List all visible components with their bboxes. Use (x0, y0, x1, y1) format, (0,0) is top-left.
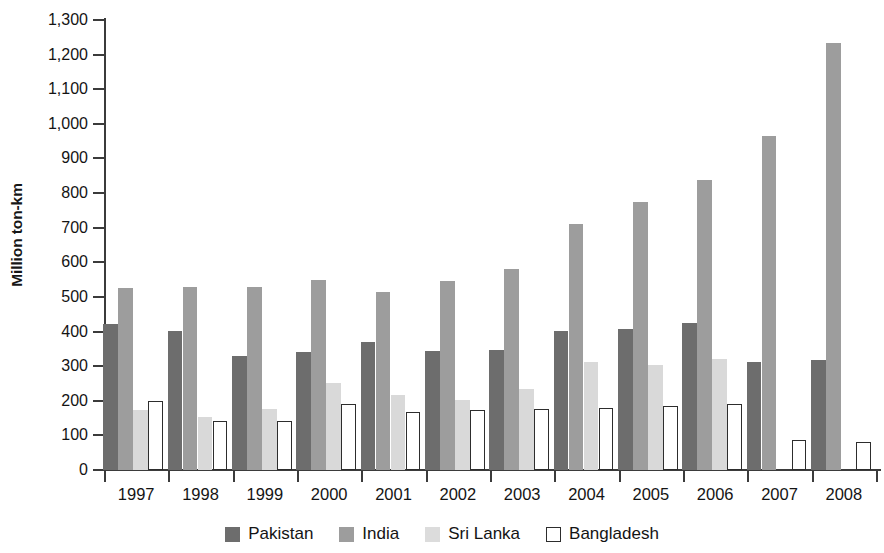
legend-item-pakistan[interactable]: Pakistan (225, 524, 313, 544)
x-axis-tick (876, 471, 878, 482)
bar-india-2005 (633, 202, 648, 470)
y-axis-tick (93, 123, 104, 125)
y-axis-tick-label: 800 (32, 184, 88, 202)
legend-swatch-bangladesh-icon (546, 527, 561, 542)
legend-swatch-india-icon (339, 527, 354, 542)
y-axis-tick-label: 1,200 (32, 46, 88, 64)
x-axis-tick-label: 1999 (246, 485, 283, 504)
y-axis-tick (93, 434, 104, 436)
bar-india-2003 (504, 269, 519, 470)
y-axis-tick (93, 400, 104, 402)
bar-bangladesh-2001 (406, 412, 421, 470)
y-axis-title-text: Million ton-km (8, 183, 26, 287)
x-axis-tick (812, 471, 814, 482)
bar-pakistan-2005 (618, 329, 633, 470)
y-axis-tick (93, 261, 104, 263)
bar-bangladesh-2003 (534, 409, 549, 470)
x-axis-tick-label: 2006 (697, 485, 734, 504)
legend-label-pakistan: Pakistan (248, 524, 313, 544)
legend-item-india[interactable]: India (339, 524, 399, 544)
bar-pakistan-1997 (103, 324, 118, 470)
y-axis-tick (93, 19, 104, 21)
y-axis-tick (93, 157, 104, 159)
bar-sri-lanka-1998 (198, 417, 213, 470)
bar-sri-lanka-2003 (519, 389, 534, 470)
y-axis-tick-label: 300 (32, 357, 88, 375)
bar-sri-lanka-2002 (455, 400, 470, 470)
bar-pakistan-2003 (489, 350, 504, 470)
x-axis-tick (361, 471, 363, 482)
bar-sri-lanka-1999 (262, 409, 277, 470)
bar-pakistan-1999 (232, 356, 247, 470)
x-axis-tick-label: 2008 (825, 485, 862, 504)
x-axis-tick (168, 471, 170, 482)
bar-india-2001 (376, 292, 391, 470)
y-axis-tick-label: 1,000 (32, 115, 88, 133)
legend-label-srilanka: Sri Lanka (448, 524, 520, 544)
x-axis-tick (297, 471, 299, 482)
legend-item-srilanka[interactable]: Sri Lanka (425, 524, 520, 544)
bar-sri-lanka-2001 (391, 395, 406, 470)
bar-pakistan-2004 (554, 331, 569, 470)
y-axis-tick-label: 1,300 (32, 11, 88, 29)
bar-pakistan-2002 (425, 351, 440, 470)
bar-pakistan-2001 (361, 342, 376, 470)
y-axis-tick-label: 700 (32, 219, 88, 237)
bar-india-2007 (762, 136, 777, 470)
x-axis-tick-label: 2004 (568, 485, 605, 504)
x-axis-tick (683, 471, 685, 482)
y-axis-tick-labels: 01002003004005006007008009001,0001,1001,… (28, 0, 88, 553)
bar-india-2002 (440, 281, 455, 470)
x-axis-tick-label: 2007 (761, 485, 798, 504)
y-axis-tick (93, 227, 104, 229)
x-axis-tick (490, 471, 492, 482)
y-axis-tick (93, 54, 104, 56)
x-axis-tick-label: 1997 (118, 485, 155, 504)
bar-pakistan-2008 (811, 360, 826, 470)
bar-india-2006 (697, 180, 712, 470)
bar-bangladesh-2005 (663, 406, 678, 470)
y-axis-tick-label: 200 (32, 392, 88, 410)
bar-pakistan-2006 (682, 323, 697, 470)
x-axis-tick-label: 2003 (504, 485, 541, 504)
legend-item-bangladesh[interactable]: Bangladesh (546, 524, 659, 544)
x-axis-tick (233, 471, 235, 482)
y-axis-tick-label: 400 (32, 323, 88, 341)
bar-bangladesh-2002 (470, 410, 485, 470)
bar-india-2000 (311, 280, 326, 470)
legend-label-bangladesh: Bangladesh (569, 524, 659, 544)
bar-pakistan-1998 (168, 331, 183, 470)
x-axis-tick (426, 471, 428, 482)
x-axis-tick (619, 471, 621, 482)
legend-swatch-srilanka-icon (425, 527, 440, 542)
x-axis-tick (104, 471, 106, 482)
x-axis-tick (747, 471, 749, 482)
bar-bangladesh-1998 (213, 421, 228, 471)
bar-bangladesh-1997 (148, 401, 163, 470)
y-axis-tick-label: 100 (32, 426, 88, 444)
bar-bangladesh-1999 (277, 421, 292, 470)
bar-india-1997 (118, 288, 133, 470)
y-axis-tick-label: 600 (32, 253, 88, 271)
plot-area (104, 20, 876, 470)
legend-swatch-pakistan-icon (225, 527, 240, 542)
bar-bangladesh-2004 (599, 408, 614, 470)
bar-sri-lanka-2005 (648, 365, 663, 470)
bar-pakistan-2000 (296, 352, 311, 470)
x-axis-tick-label: 2001 (375, 485, 412, 504)
bar-chart: Million ton-km 0100200300400500600700800… (0, 0, 884, 553)
y-axis-tick (93, 192, 104, 194)
x-axis-tick-label: 1998 (182, 485, 219, 504)
x-axis-tick-label: 2005 (632, 485, 669, 504)
bar-sri-lanka-2004 (584, 362, 599, 470)
bar-bangladesh-2006 (727, 404, 742, 470)
y-axis-tick-label: 500 (32, 288, 88, 306)
bar-pakistan-2007 (747, 362, 762, 470)
y-axis-tick-label: 900 (32, 149, 88, 167)
bar-sri-lanka-2006 (712, 359, 727, 470)
x-axis-tick (554, 471, 556, 482)
y-axis-tick (93, 365, 104, 367)
bar-bangladesh-2008 (856, 442, 871, 470)
y-axis-tick (93, 296, 104, 298)
bar-india-2008 (826, 43, 841, 470)
